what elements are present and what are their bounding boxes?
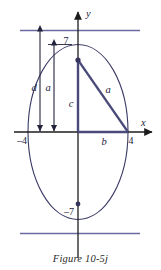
label-a-hypotenuse: a [105,84,110,95]
figure-container: y x 7 –7 –4 4 a b c d a Figure 10-5j [0,0,161,270]
label-b: b [101,136,106,147]
label-d: d [31,82,37,93]
x-tick-label-4: 4 [129,135,134,146]
ellipse-diagram: y x 7 –7 –4 4 a b c d a [0,0,161,270]
y-tick-label-neg7: –7 [63,206,74,217]
label-c: c [69,98,74,109]
figure-caption: Figure 10-5j [53,253,108,264]
segment-a-hypotenuse [78,60,128,132]
label-a-semi-major: a [45,82,50,93]
focus-lower-point [76,202,81,207]
y-axis-label: y [85,8,91,19]
x-axis-label: x [140,117,146,128]
x-tick-label-neg4: –4 [16,135,27,146]
y-tick-label-7: 7 [64,35,69,46]
figure-caption-wrap: Figure 10-5j [0,248,161,266]
focus-upper-point [75,57,80,62]
